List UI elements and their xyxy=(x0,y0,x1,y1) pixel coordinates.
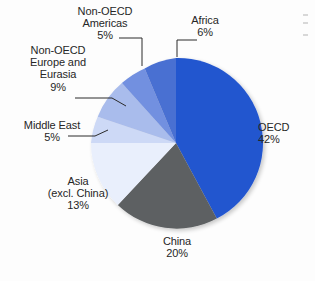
slice-label-line: China xyxy=(142,235,212,247)
slice-label-middle-east: Middle East 5% xyxy=(6,119,98,143)
slice-label-line: Non-OECD xyxy=(16,44,100,56)
slice-label-asia: Asia (excl. China) 13% xyxy=(24,175,132,212)
slice-label-line: OECD xyxy=(258,121,312,133)
slice-value: 42% xyxy=(258,133,312,145)
pie-chart-figure: Non-OECD Americas 5% Africa 6% Non-OECD … xyxy=(0,0,315,281)
slice-label-line: Africa xyxy=(174,14,236,26)
slice-label-china: China 20% xyxy=(142,235,212,259)
slice-value: 20% xyxy=(142,247,212,259)
slice-value: 9% xyxy=(16,81,100,93)
leader-line-africa xyxy=(177,40,197,57)
slice-label-line: Americas xyxy=(62,17,148,29)
slice-label-line: Europe and xyxy=(16,56,100,68)
slice-label-line: Middle East xyxy=(6,119,98,131)
slice-label-africa: Africa 6% xyxy=(174,14,236,38)
scan-artifact xyxy=(303,34,308,36)
leader-line-americas xyxy=(119,38,142,66)
slice-value: 5% xyxy=(6,131,98,143)
slice-value: 6% xyxy=(174,26,236,38)
slice-value: 5% xyxy=(62,29,148,41)
slice-value: 13% xyxy=(24,199,132,211)
scan-artifact xyxy=(303,22,308,24)
slice-label-line: Eurasia xyxy=(16,68,100,80)
slice-label-line: Non-OECD xyxy=(62,5,148,17)
slice-label-non-oecd-europe-eurasia: Non-OECD Europe and Eurasia 9% xyxy=(16,44,100,93)
scan-artifact xyxy=(303,14,308,16)
slice-label-non-oecd-americas: Non-OECD Americas 5% xyxy=(62,5,148,42)
slice-label-line: (excl. China) xyxy=(24,187,132,199)
slice-label-oecd: OECD 42% xyxy=(258,121,312,145)
slice-label-line: Asia xyxy=(24,175,132,187)
